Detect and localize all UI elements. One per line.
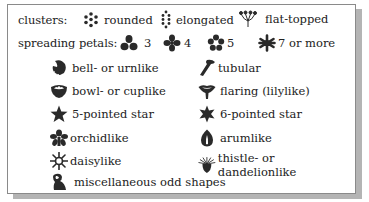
legend-item-7-or-more-petals: 7 or more [258, 34, 335, 52]
thistle-icon [198, 156, 216, 174]
legend-label: flaring (lilylike) [220, 84, 310, 98]
legend-label: tubular [218, 61, 261, 75]
flaring-icon [198, 82, 216, 100]
legend-item-bowl: bowl- or cuplike [50, 82, 166, 100]
four-petal-icon [163, 34, 181, 52]
legend-label: arumlike [220, 131, 272, 145]
legend-item-daisy: daisylike [50, 152, 121, 170]
legend-item-arum: arumlike [198, 129, 272, 147]
spreading-petals-row: spreading petals: [18, 34, 117, 52]
legend-item-orchid: orchidlike [50, 129, 128, 147]
legend-label: daisylike [70, 154, 121, 168]
legend-item-thistle: thistle- or dandelionlike [198, 151, 355, 179]
elongated-cluster-icon [160, 10, 172, 30]
bell-icon [50, 59, 68, 77]
legend-label: 3 [144, 36, 151, 50]
legend-item-flaring: flaring (lilylike) [198, 82, 310, 100]
arum-icon [198, 129, 216, 147]
legend-label: bowl- or cuplike [72, 84, 166, 98]
legend-label: 6-pointed star [220, 107, 302, 121]
daisy-icon [50, 152, 68, 170]
legend-item-3-petals: 3 [120, 34, 151, 52]
legend-item-elongated: elongated [160, 10, 234, 30]
legend-label: 4 [184, 36, 191, 50]
legend-label: 5 [227, 36, 234, 50]
legend-item-5-pointed-star: 5-pointed star [50, 105, 154, 123]
three-petal-icon [120, 34, 138, 52]
legend-item-bell: bell- or urnlike [50, 59, 159, 77]
five-petal-icon [207, 34, 225, 52]
legend-label: bell- or urnlike [72, 61, 159, 75]
legend-item-rounded: rounded [82, 11, 153, 29]
orchid-icon [50, 129, 68, 147]
legend-label: flat-topped [265, 12, 328, 26]
legend-item-4-petals: 4 [163, 34, 191, 52]
flower-shape-legend: clusters: rounded elongated [7, 4, 356, 194]
legend-item-tubular: tubular [198, 59, 261, 77]
legend-label: 7 or more [278, 36, 335, 50]
legend-label: 5-pointed star [72, 107, 154, 121]
spreading-petals-label: spreading petals: [18, 36, 117, 50]
legend-item-5-petals: 5 [207, 34, 234, 52]
legend-label: orchidlike [70, 131, 128, 145]
odd-shape-icon [50, 173, 68, 191]
legend-item-6-pointed-star: 6-pointed star [198, 105, 302, 123]
seven-petal-icon [258, 34, 276, 52]
legend-label: thistle- or dandelionlike [218, 151, 355, 179]
legend-label: rounded [104, 13, 153, 27]
rounded-cluster-icon [82, 11, 100, 29]
six-pointed-star-icon [198, 105, 216, 123]
clusters-label: clusters: [18, 13, 67, 27]
legend-label: elongated [176, 13, 234, 27]
clusters-row: clusters: [18, 11, 67, 29]
tubular-icon [198, 59, 216, 77]
legend-item-flat-topped: flat-topped [238, 10, 328, 28]
five-pointed-star-icon [50, 105, 68, 123]
flat-topped-cluster-icon [238, 10, 258, 28]
bowl-icon [50, 82, 68, 100]
